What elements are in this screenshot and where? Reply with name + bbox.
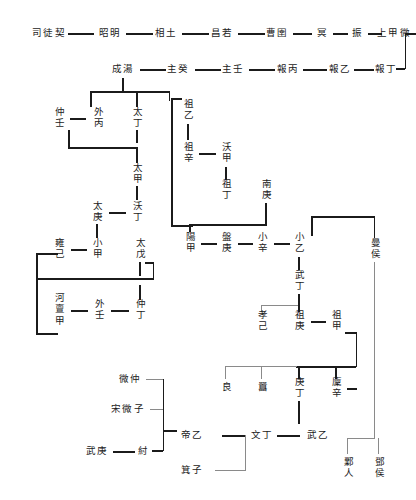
node-nangeng: 南庚 [261,179,271,201]
link-wending-wuyi [277,435,300,437]
drop-denghou [378,438,379,454]
drop-yangjia [189,224,191,232]
node-sikuangqi: 司徒契 [32,27,66,39]
node-zhugui: 主癸 [167,63,189,75]
node-linxin: 廩辛 [331,377,341,399]
wrap-bottom-row1 [396,68,405,70]
drop-taijia [136,147,138,163]
link-changruo-caoyu [238,33,265,35]
link-xiangtu-changruo [182,33,209,35]
link-caoyu-ming [293,33,312,35]
link-chengtang-zhugui [140,69,166,71]
link-wugeng-zhou [113,451,135,453]
node-xiangtu: 相土 [155,27,177,39]
node-hedanjia: 河亶甲 [54,293,64,327]
node-ming: 冥 [317,27,328,39]
node-jizi: 箕子 [181,464,203,476]
link-wairen-zhongding [111,310,129,312]
node-caoyu: 曹圉 [266,27,288,39]
node-baobing: 報丙 [277,63,299,75]
link-gengding-wuyi [298,401,300,424]
bracket-chengtang-children [90,91,170,93]
node-taiwu: 太戊 [135,238,145,260]
link-zhongren-waibing [70,118,86,120]
arm-hedanjia-bottom [36,333,58,335]
bracket-manhou-children [347,438,375,439]
node-zuxin: 祖辛 [183,142,193,164]
link-xiaoxin-xiaoyi [274,243,290,245]
node-wuding: 武丁 [294,270,304,292]
link-diyi-wending [222,435,246,437]
bracket-wuding-children [261,305,299,306]
link-zhaoming-xiangtu [126,33,153,35]
node-zhen: 振 [352,27,363,39]
bracket-yangjia-row [189,224,267,226]
arm-to-manhou [311,216,375,218]
spine-zuyi-down [171,98,173,226]
stem-taiding-down [136,130,138,143]
node-xiaoyi: 小乙 [294,232,304,254]
stem-yongji-left [36,253,38,279]
node-shangjiawei: 上甲微 [377,27,411,39]
link-hedanjia-wairen [71,310,88,312]
node-gengding: 庚丁 [294,377,304,399]
link-zuxin-woujia [199,153,216,155]
drop-taiding-right [169,91,171,101]
stem-taiwu-down [139,262,141,276]
node-yeren: 鄴人 [343,457,353,479]
drop-yeren [347,438,348,454]
node-chengtang: 成湯 [112,63,134,75]
node-yongji: 雍己 [54,238,64,260]
node-taiding: 太丁 [132,107,142,129]
node-wuyi: 武乙 [307,429,329,441]
node-zhongren: 仲壬 [54,107,64,129]
node-zugeng: 祖庚 [294,310,304,332]
node-yangjia: 陽甲 [185,232,195,254]
node-zhaoming: 昭明 [99,27,121,39]
node-woujia: 沃甲 [221,142,231,164]
node-wairen: 外壬 [94,299,104,321]
drop-taiwu-right [153,262,155,279]
node-zhuren: 主壬 [222,63,244,75]
link-baoyi-baoding [354,69,374,71]
tick-linxin-right [347,388,357,390]
node-waibing: 外丙 [93,107,103,129]
node-zuyi: 祖乙 [183,99,193,121]
arm-taiwu-right [145,262,154,264]
genealogy-diagram: 司徒契 昭明 相土 昌若 曹圉 冥 振 上甲微 成湯 主癸 主壬 報丙 報乙 報… [0,0,416,500]
node-wugeng: 武庚 [86,445,108,457]
stem-xiaoyi-right [311,216,313,236]
node-liang: 良 [221,382,231,393]
arm-zuyi-left [172,98,182,100]
node-xiaojia: 小甲 [92,238,102,260]
node-baoding: 報丁 [375,63,397,75]
spine-jizi-diyi [245,435,246,470]
node-xiaoji: 孝己 [257,310,267,332]
drop-xiao [261,366,262,379]
drop-liang [225,366,226,379]
link-zugeng-zujia [311,321,326,323]
arm-songweizi [150,409,163,410]
link-zhugui-zhuren [195,69,221,71]
node-wouding: 沃丁 [132,201,142,223]
stem-hedanjia-left [36,278,38,334]
node-zhongding: 仲丁 [135,299,145,321]
node-zhou: 紂 [138,445,149,457]
spine-diyi-children [163,379,165,451]
arm-weizhong [146,379,163,380]
link-zuyi-zuxin [187,124,189,140]
node-zuding: 祖丁 [221,179,231,201]
node-taigeng: 太庚 [92,201,102,223]
link-taigeng-wouding [109,212,126,214]
node-taijia: 太甲 [132,163,142,185]
node-xiaoxin: 小辛 [257,232,267,254]
link-ming-zhen [333,33,348,35]
stem-nangeng-down [265,203,267,225]
spine-manhou-down [374,262,375,438]
link-pangeng-xiaoxin [238,243,253,245]
arm-jizi [215,470,246,471]
link-yangjia-pangeng [201,243,217,245]
arm-zhou [152,450,163,452]
arm-diyi-left [163,430,177,432]
stem-zujia-right-down [356,332,358,367]
